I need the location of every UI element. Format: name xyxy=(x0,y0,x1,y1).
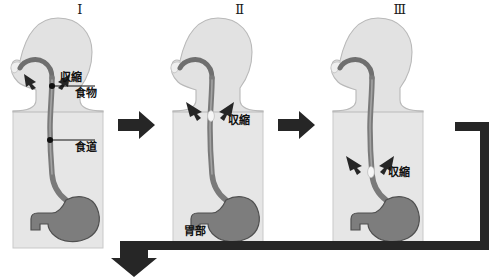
stage-numeral-2: Ⅱ xyxy=(160,2,320,17)
flow-arrow-loop-back xyxy=(0,108,493,277)
label-contraction-1: 収縮 xyxy=(60,68,82,84)
loop-right-segment xyxy=(480,122,489,250)
label-food-1: 食物 xyxy=(75,84,97,100)
stage-numeral-3: Ⅲ xyxy=(320,2,480,17)
stage-numeral-1: Ⅰ xyxy=(0,2,160,17)
loop-bottom-segment xyxy=(134,241,489,250)
